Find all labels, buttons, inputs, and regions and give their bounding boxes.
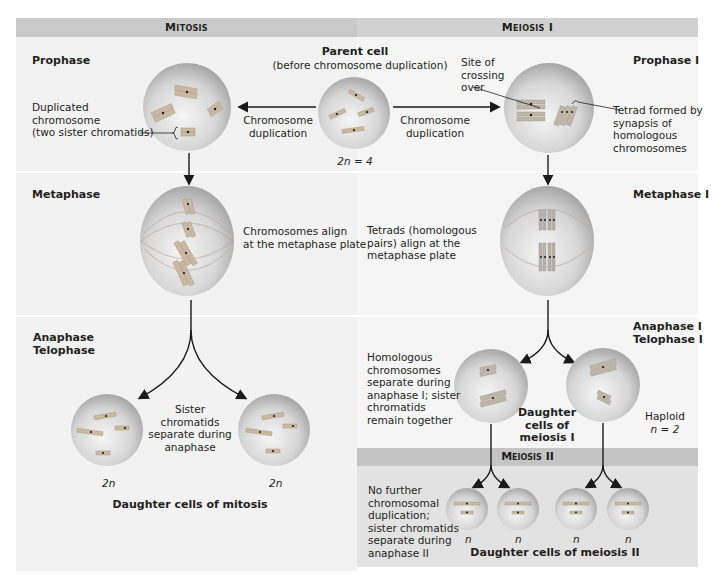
label-chromosome-duplication-right: Chromosome duplication — [400, 114, 470, 139]
label-chromosome-duplication-left: Chromosome duplication — [243, 114, 313, 139]
meiosis2-daughter-cells — [446, 488, 649, 530]
meiosis-metaphase1-cell — [500, 186, 594, 296]
meiosis-prophase1-cell — [504, 63, 594, 153]
phase-metaphase1: Metaphase I — [633, 188, 709, 201]
parent-cell — [318, 77, 390, 149]
parent-cell-subtitle: (before chromosome duplication) — [270, 59, 450, 72]
phase-metaphase: Metaphase — [32, 188, 100, 201]
meiosis2-ploidy-1: n — [465, 533, 472, 546]
label-sister-chromatids-separate: Sister chromatids separate during anapha… — [145, 403, 235, 453]
parent-cell-title: Parent cell — [300, 46, 410, 59]
label-duplicated-chromosome: Duplicated chromosome (two sister chroma… — [32, 101, 154, 139]
mitosis-daughter-ploidy-left: 2n — [102, 477, 115, 490]
mitosis-daughter-cell-right — [238, 394, 310, 466]
meiosis2-ploidy-2: n — [515, 533, 522, 546]
label-tetrad-formed: Tetrad formed by synapsis of homologous … — [613, 104, 703, 154]
mitosis-daughter-cell-left — [71, 394, 143, 466]
diagram-graphics — [0, 0, 712, 582]
mitosis-metaphase-cell — [140, 186, 234, 296]
label-haploid: Haploid n = 2 — [640, 410, 690, 435]
phase-prophase: Prophase — [32, 54, 90, 67]
label-chromosomes-align: Chromosomes align at the metaphase plate — [243, 225, 366, 250]
phase-telophase1: Telophase I — [633, 333, 703, 346]
label-homologous-separate: Homologous chromosomes separate during a… — [367, 351, 460, 426]
mitosis-daughter-ploidy-right: 2n — [269, 477, 282, 490]
phase-anaphase: Anaphase — [33, 331, 94, 344]
meiosis2-ploidy-3: n — [573, 533, 580, 546]
mitosis-prophase-cell — [143, 63, 231, 151]
phase-prophase1: Prophase I — [633, 54, 699, 67]
phase-anaphase1: Anaphase I — [633, 320, 702, 333]
meiosis2-ploidy-4: n — [625, 533, 632, 546]
label-daughter-cells-mitosis: Daughter cells of mitosis — [100, 499, 280, 512]
label-no-further-duplication: No further chromosomal duplication; sist… — [368, 484, 459, 559]
parent-ploidy: 2n = 4 — [330, 155, 380, 168]
label-site-of-crossing-over: Site of crossing over — [461, 56, 504, 94]
label-daughter-cells-meiosis1: Daughter cells of meiosis I — [517, 407, 577, 445]
label-daughter-cells-meiosis2: Daughter cells of meiosis II — [470, 547, 640, 560]
meiosis1-daughter-cell-right — [566, 348, 640, 422]
phase-telophase: Telophase — [33, 344, 95, 357]
label-tetrads-align: Tetrads (homologous pairs) align at the … — [367, 224, 477, 262]
